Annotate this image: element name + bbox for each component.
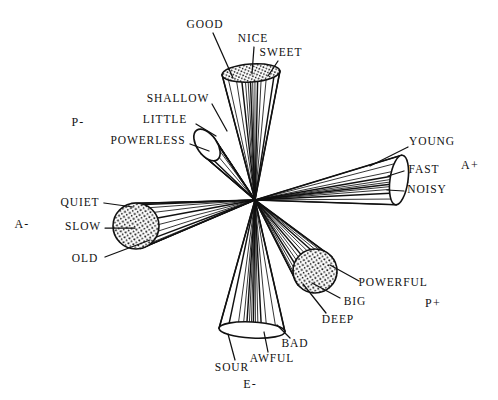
scale-label-quiet: QUIET [61, 197, 100, 209]
cone-p-plus-cap [293, 249, 337, 293]
axis-label-e-minus: E- [243, 378, 257, 390]
axis-label-a-plus: A+ [461, 159, 479, 171]
figure-canvas: GOODNICESWEETSHALLOWLITTLEPOWERLESSYOUNG… [0, 0, 498, 400]
scale-label-nice: NICE [238, 33, 268, 45]
leader-sour [228, 334, 235, 360]
scale-label-big: BIG [344, 296, 367, 308]
axis-label-p-minus: P- [71, 116, 84, 128]
cone-a-plus [255, 154, 411, 206]
scale-label-sweet: SWEET [260, 47, 303, 59]
scale-label-powerless: POWERLESS [110, 135, 185, 147]
cone-a-minus-cap [113, 203, 159, 249]
scale-label-good: GOOD [187, 19, 224, 31]
scale-label-deep: DEEP [322, 314, 354, 326]
scale-label-awful: AWFUL [250, 353, 294, 365]
leader-shallow [212, 104, 227, 131]
scale-label-fast: FAST [409, 164, 440, 176]
axis-label-p-plus: P+ [425, 297, 441, 309]
scale-label-slow: SLOW [65, 221, 101, 233]
scale-label-little: LITTLE [143, 114, 187, 126]
cone-a-minus [113, 200, 255, 249]
scale-label-sour: SOUR [215, 362, 249, 374]
scale-label-powerful: POWERFUL [358, 277, 427, 289]
scale-label-noisy: NOISY [407, 184, 447, 196]
scale-label-bad: BAD [282, 338, 309, 350]
scale-label-shallow: SHALLOW [147, 93, 210, 105]
axis-label-a-minus: A- [14, 218, 29, 230]
scale-label-old: OLD [72, 253, 98, 265]
scale-label-young: YOUNG [409, 136, 455, 148]
